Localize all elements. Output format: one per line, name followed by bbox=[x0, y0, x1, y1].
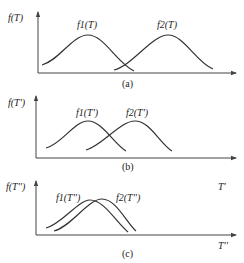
panel-c-curve2-label: f2(T'') bbox=[116, 193, 140, 203]
panel-a-curve-f2 bbox=[114, 35, 213, 70]
panel-c-caption: (c) bbox=[122, 249, 133, 259]
panel-b-curve2-label: f2(T') bbox=[126, 108, 148, 118]
panel-b-curve-f1 bbox=[46, 121, 126, 151]
panel-c-curve1-label: f1(T'') bbox=[56, 193, 80, 203]
panel-b-curve1-label: f1(T') bbox=[76, 108, 98, 118]
panel-a-curve-f1 bbox=[42, 35, 134, 71]
panel-b-y-axis-label: f(T') bbox=[8, 98, 25, 108]
panel-a-curve1-label: f1(T) bbox=[77, 20, 97, 30]
panel-a-caption: (a) bbox=[122, 79, 133, 89]
panel-b-axes bbox=[36, 96, 236, 158]
panel-c-curve-f1 bbox=[46, 200, 128, 232]
panel-a-axes bbox=[38, 12, 236, 73]
panel-c-extra-label: T' bbox=[218, 182, 226, 192]
panel-b-caption: (b) bbox=[122, 162, 134, 172]
panel-c-x-axis-label: T'' bbox=[218, 241, 228, 251]
panel-c-y-axis-label: f(T'') bbox=[6, 182, 25, 192]
panel-c-axes bbox=[36, 181, 236, 235]
diagram-canvas bbox=[0, 0, 244, 263]
panel-a-y-axis-label: f(T) bbox=[8, 13, 23, 23]
panel-a-curve2-label: f2(T) bbox=[157, 20, 177, 30]
